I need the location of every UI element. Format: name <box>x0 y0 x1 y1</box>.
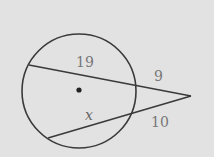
label-upper-chord: 19 <box>76 54 94 70</box>
label-lower-chord: x <box>85 107 93 123</box>
secant-diagram: 19 9 x 10 <box>0 0 214 162</box>
upper-secant <box>29 65 191 96</box>
center-point <box>76 87 81 92</box>
label-lower-external: 10 <box>151 114 169 130</box>
label-upper-external: 9 <box>154 68 163 84</box>
